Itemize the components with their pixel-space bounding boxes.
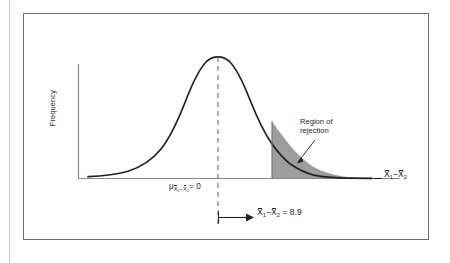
diff-label-sub2: 2 (277, 212, 280, 218)
diff-label-sub1: 1 (263, 212, 266, 218)
diff-label-x2: X (271, 208, 277, 218)
region-label-line1: Region of (300, 117, 333, 126)
x-axis-label: X1−X2 (384, 170, 407, 180)
mean-label-subscript: X1−X2 (174, 186, 189, 192)
region-label-line2: rejection (300, 127, 333, 136)
x-axis-label-x1: X (384, 170, 390, 180)
mean-label-sub-1: 1 (178, 188, 180, 193)
difference-arrowhead (246, 214, 254, 222)
distribution-plot (0, 0, 450, 263)
diff-label-value: 8.9 (290, 207, 302, 217)
mean-label-sub-2: 2 (187, 188, 189, 193)
mean-label: μX1−X2= 0 (169, 182, 201, 191)
diff-label-equals: = (282, 207, 287, 217)
x-axis-label-sub1: 1 (390, 174, 393, 180)
diff-label-x1: X (257, 208, 263, 218)
region-leader-line (298, 140, 315, 162)
mean-label-sub-x1: X (174, 186, 178, 192)
y-axis-label-text: Frequency (49, 87, 57, 129)
observed-difference-label: X1−X2 = 8.9 (257, 208, 302, 218)
mean-label-equals: = 0 (189, 182, 201, 191)
region-of-rejection-label: Region of rejection (300, 118, 333, 135)
x-axis-label-x2: X (398, 170, 404, 180)
x-axis-label-sub2: 2 (404, 174, 407, 180)
y-axis-label: Frequency (46, 78, 60, 140)
